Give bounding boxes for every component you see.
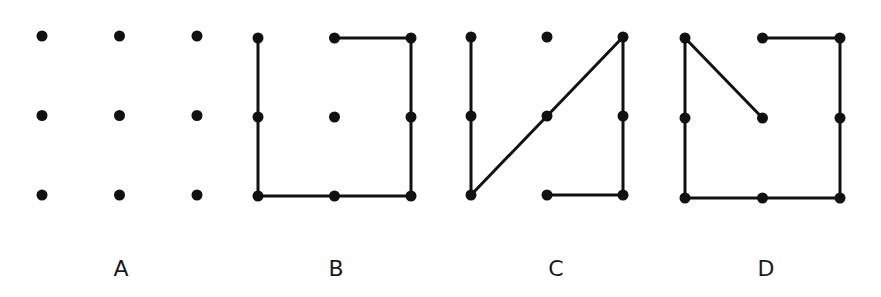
grid-dot <box>114 31 125 42</box>
panel-d: D <box>680 33 846 282</box>
grid-dot <box>835 33 846 44</box>
grid-dot <box>757 33 768 44</box>
grid-dot <box>542 32 553 43</box>
grid-dot <box>835 113 846 124</box>
panel-b-dots <box>253 33 417 202</box>
grid-dot <box>192 31 203 42</box>
grid-dot <box>329 33 340 44</box>
grid-dot <box>618 32 629 43</box>
grid-dot <box>680 33 691 44</box>
grid-dot <box>114 190 125 201</box>
grid-dot <box>329 191 340 202</box>
path-segment <box>685 38 763 118</box>
grid-dot <box>192 190 203 201</box>
grid-dot <box>37 31 48 42</box>
grid-dot <box>680 113 691 124</box>
grid-dot <box>37 110 48 121</box>
grid-dot <box>406 33 417 44</box>
grid-dot <box>466 32 477 43</box>
grid-dot <box>680 193 691 204</box>
grid-dot <box>542 111 553 122</box>
grid-dot <box>253 191 264 202</box>
grid-dot <box>329 112 340 123</box>
panel-b-label: B <box>328 256 343 281</box>
dot-grid-figure: A B C D <box>0 0 881 297</box>
grid-dot <box>835 193 846 204</box>
panel-a: A <box>37 31 203 282</box>
panel-b: B <box>253 33 417 282</box>
grid-dot <box>37 190 48 201</box>
grid-dot <box>114 110 125 121</box>
grid-dot <box>406 191 417 202</box>
panel-d-label: D <box>758 256 775 281</box>
panel-c: C <box>466 32 629 282</box>
grid-dot <box>466 190 477 201</box>
grid-dot <box>253 112 264 123</box>
grid-dot <box>757 193 768 204</box>
grid-dot <box>192 110 203 121</box>
panel-c-label: C <box>548 256 563 281</box>
grid-dot <box>466 111 477 122</box>
panel-a-label: A <box>113 256 128 281</box>
grid-dot <box>542 190 553 201</box>
grid-dot <box>757 113 768 124</box>
grid-dot <box>618 111 629 122</box>
panel-a-dots <box>37 31 203 201</box>
grid-dot <box>406 112 417 123</box>
grid-dot <box>253 33 264 44</box>
grid-dot <box>618 190 629 201</box>
